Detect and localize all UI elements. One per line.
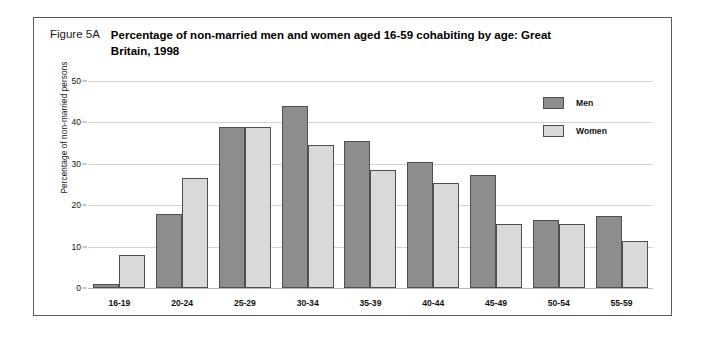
x-tick-label-16-19: 16-19 bbox=[108, 298, 130, 308]
y-axis-title: Percentage of non-married persons bbox=[60, 38, 69, 218]
y-tick-mark-30 bbox=[82, 163, 87, 164]
y-tick-label-30: 30 bbox=[72, 159, 81, 169]
bar-group-30-34: 30-34 bbox=[282, 81, 334, 288]
x-tick-label-40-44: 40-44 bbox=[422, 298, 444, 308]
bar-men-35-39[interactable] bbox=[344, 141, 370, 288]
y-tick-label-40: 40 bbox=[72, 117, 81, 127]
y-tick-label-50: 50 bbox=[72, 76, 81, 86]
bar-group-16-19: 16-19 bbox=[93, 81, 145, 288]
bar-women-20-24[interactable] bbox=[182, 178, 208, 288]
x-tick-label-30-34: 30-34 bbox=[297, 298, 319, 308]
x-tick-label-35-39: 35-39 bbox=[359, 298, 381, 308]
y-tick-mark-0 bbox=[82, 288, 87, 289]
bar-group-25-29: 25-29 bbox=[219, 81, 271, 288]
bar-women-45-49[interactable] bbox=[496, 224, 522, 288]
legend-item-women[interactable]: Women bbox=[543, 125, 607, 137]
y-tick-mark-40 bbox=[82, 122, 87, 123]
gridline-0: 0 bbox=[88, 288, 653, 289]
x-tick-label-20-24: 20-24 bbox=[171, 298, 193, 308]
chart-legend: MenWomen bbox=[543, 97, 607, 153]
legend-label-women: Women bbox=[576, 126, 607, 136]
bar-group-35-39: 35-39 bbox=[344, 81, 396, 288]
legend-item-men[interactable]: Men bbox=[543, 97, 607, 109]
bar-men-40-44[interactable] bbox=[407, 162, 433, 288]
bar-women-50-54[interactable] bbox=[559, 224, 585, 288]
bar-men-45-49[interactable] bbox=[470, 175, 496, 288]
y-tick-mark-10 bbox=[82, 246, 87, 247]
bar-men-16-19[interactable] bbox=[93, 284, 119, 288]
x-tick-label-45-49: 45-49 bbox=[485, 298, 507, 308]
bar-women-30-34[interactable] bbox=[308, 145, 334, 288]
bar-group-45-49: 45-49 bbox=[470, 81, 522, 288]
legend-swatch-men bbox=[543, 97, 564, 109]
bar-group-20-24: 20-24 bbox=[156, 81, 208, 288]
bar-men-20-24[interactable] bbox=[156, 214, 182, 288]
bar-men-55-59[interactable] bbox=[596, 216, 622, 288]
bar-men-30-34[interactable] bbox=[282, 106, 308, 288]
x-tick-label-55-59: 55-59 bbox=[611, 298, 633, 308]
bar-women-40-44[interactable] bbox=[433, 183, 459, 288]
bar-women-35-39[interactable] bbox=[370, 170, 396, 288]
bar-men-50-54[interactable] bbox=[533, 220, 559, 288]
bar-women-25-29[interactable] bbox=[245, 127, 271, 288]
legend-swatch-women bbox=[543, 125, 564, 137]
bar-men-25-29[interactable] bbox=[219, 127, 245, 288]
y-tick-label-20: 20 bbox=[72, 200, 81, 210]
y-tick-label-0: 0 bbox=[76, 283, 81, 293]
figure-panel: Figure 5A Percentage of non-married men … bbox=[33, 17, 672, 316]
bar-women-16-19[interactable] bbox=[119, 255, 145, 288]
bar-group-40-44: 40-44 bbox=[407, 81, 459, 288]
x-tick-label-50-54: 50-54 bbox=[548, 298, 570, 308]
legend-label-men: Men bbox=[576, 98, 593, 108]
y-tick-label-10: 10 bbox=[72, 242, 81, 252]
y-tick-mark-20 bbox=[82, 205, 87, 206]
y-tick-mark-50 bbox=[82, 81, 87, 82]
x-tick-label-25-29: 25-29 bbox=[234, 298, 256, 308]
chart-container: Percentage of non-married persons 010203… bbox=[34, 18, 673, 317]
bar-women-55-59[interactable] bbox=[622, 241, 648, 288]
